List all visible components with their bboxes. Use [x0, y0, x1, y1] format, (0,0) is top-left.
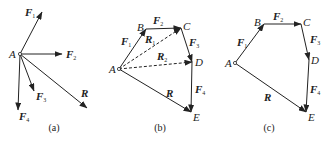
- vector-f2-arrow: [146, 28, 181, 29]
- point-label-d: D: [310, 54, 319, 66]
- point-label-a: A: [8, 48, 16, 60]
- panel-captions: (a) (b) (c): [48, 122, 274, 134]
- vector-r-arrow: [235, 63, 306, 112]
- vector-label-f1: F1: [236, 36, 247, 49]
- vector-label-f2: F2: [65, 48, 76, 61]
- vector-label-r: R: [80, 87, 88, 99]
- panel-b-force-polygon-with-partial-resultants: F1F2F3F4R1R2RABCDE: [108, 14, 205, 123]
- point-label-c: C: [303, 16, 311, 28]
- vector-label-f1: F1: [120, 35, 131, 48]
- vector-label-f1: F1: [24, 6, 35, 19]
- force-polygon-figure: F1F2F3F4RA F1F2F3F4R1R2RABCDE F1F2F3F4RA…: [0, 0, 323, 149]
- vector-label-f2: F2: [272, 10, 283, 23]
- caption-a: (a): [48, 122, 59, 134]
- vector-f3-arrow: [301, 24, 309, 60]
- panel-a-concurrent-forces: F1F2F3F4RA: [8, 6, 88, 123]
- point-label-e: E: [192, 111, 200, 123]
- panel-c-force-polygon: F1F2F3F4RABCDE: [224, 10, 320, 123]
- point-a-circle: [233, 61, 236, 64]
- vector-f4-arrow: [18, 54, 20, 110]
- vector-label-f3: F3: [35, 90, 46, 103]
- point-label-a: A: [108, 63, 116, 75]
- vector-label-r: R: [263, 91, 271, 103]
- vector-label-f4: F4: [309, 83, 320, 96]
- vector-f1-arrow: [20, 12, 42, 54]
- vector-label-f3: F3: [309, 33, 320, 46]
- vector-r-arrow: [119, 69, 191, 112]
- point-label-e: E: [307, 111, 315, 123]
- caption-c: (c): [263, 122, 274, 134]
- figure-svg: F1F2F3F4RA F1F2F3F4R1R2RABCDE F1F2F3F4RA…: [0, 0, 323, 149]
- point-label-b: B: [137, 21, 144, 33]
- point-label-a: A: [224, 57, 232, 69]
- vector-label-f2: F2: [152, 14, 163, 27]
- vector-label-f4: F4: [194, 83, 205, 96]
- vector-r2-arrow: [119, 62, 192, 69]
- vector-label-r2: R2: [156, 50, 167, 63]
- vector-label-r1: R1: [144, 33, 155, 46]
- point-label-b: B: [254, 16, 261, 28]
- vector-f4-arrow: [191, 62, 192, 112]
- vector-label-r: R: [165, 87, 173, 99]
- point-a-circle: [18, 52, 21, 55]
- point-label-d: D: [194, 56, 203, 68]
- point-label-c: C: [183, 20, 191, 32]
- vector-f4-arrow: [306, 60, 309, 112]
- caption-b: (b): [154, 122, 166, 134]
- vector-label-f3: F3: [188, 36, 199, 49]
- vector-label-f4: F4: [18, 110, 29, 123]
- point-a-circle: [117, 67, 120, 70]
